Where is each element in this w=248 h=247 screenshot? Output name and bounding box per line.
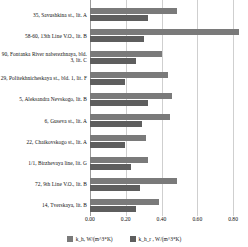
bar-series-2: [90, 100, 148, 106]
category-row: 1/1, Birzhevaya line, lit. G: [0, 152, 248, 173]
bar-series-2: [90, 36, 144, 42]
plot-area: 35, Savushkina st., lit. A58-60, 13th Li…: [0, 0, 248, 220]
bar-group: [90, 68, 248, 89]
bar-series-1: [90, 157, 148, 163]
x-tick-label: 0.60: [192, 216, 202, 222]
bar-group: [90, 4, 248, 25]
chart-legend: k_h, W/(m^3*K)k_h_r , W/(m^3*K): [0, 232, 248, 245]
bar-group: [90, 195, 248, 216]
x-tick-label: 0.40: [157, 216, 167, 222]
bar-series-2: [90, 185, 140, 191]
bar-series-2: [90, 142, 125, 148]
category-label: 5, Aleksandra Nevskogo, lit. B: [0, 96, 90, 102]
bar-group: [90, 25, 248, 46]
x-tick-label: 0.80: [228, 216, 238, 222]
category-label: 6, Guseva st., lit. A: [0, 118, 90, 124]
bar-series-2: [90, 164, 131, 170]
bar-chart: 35, Savushkina st., lit. A58-60, 13th Li…: [0, 0, 248, 247]
bar-group: [90, 131, 248, 152]
category-row: 14, Tverskaya, lit. B: [0, 195, 248, 216]
bar-series-1: [90, 8, 177, 14]
bar-series-1: [90, 178, 177, 184]
bar-series-2: [90, 15, 148, 21]
x-axis: 0.000.200.400.600.80: [90, 216, 242, 228]
category-row: 72, 9th Line V.O., lit. B: [0, 174, 248, 195]
category-label: 90, Fontanka River naberezhnaya, bld. 3,…: [0, 51, 90, 63]
x-tick-label: 0.00: [85, 216, 95, 222]
legend-label: k_h, W/(m^3*K): [76, 236, 113, 242]
category-row: 29, Politekhnicheskaya st., bld. 1, lit.…: [0, 68, 248, 89]
category-label: 1/1, Birzhevaya line, lit. G: [0, 160, 90, 166]
category-label: 29, Politekhnicheskaya st., bld. 1, lit.…: [0, 75, 90, 81]
category-row: 22, Chaikovskogo st., lit. A: [0, 131, 248, 152]
bar-group: [90, 152, 248, 173]
bar-series-1: [90, 72, 168, 78]
category-label: 58-60, 13th Line V.O., lit. B: [0, 33, 90, 39]
legend-item[interactable]: k_h_r , W/(m^3*K): [130, 236, 182, 242]
bar-series-1: [90, 114, 170, 120]
category-row: 5, Aleksandra Nevskogo, lit. B: [0, 89, 248, 110]
bar-group: [90, 89, 248, 110]
category-label: 72, 9th Line V.O., lit. B: [0, 181, 90, 187]
bar-series-1: [90, 93, 172, 99]
bar-series-2: [90, 206, 136, 212]
bar-series-2: [90, 79, 125, 85]
x-tick-label: 0.20: [121, 216, 131, 222]
bar-group: [90, 110, 248, 131]
legend-label: k_h_r , W/(m^3*K): [139, 236, 182, 242]
category-row: 35, Savushkina st., lit. A: [0, 4, 248, 25]
category-row: 58-60, 13th Line V.O., lit. B: [0, 25, 248, 46]
category-row: 90, Fontanka River naberezhnaya, bld. 3,…: [0, 46, 248, 67]
legend-swatch-icon: [67, 236, 73, 242]
category-row: 6, Guseva st., lit. A: [0, 110, 248, 131]
bar-series-1: [90, 199, 159, 205]
category-label: 22, Chaikovskogo st., lit. A: [0, 139, 90, 145]
bar-series-1: [90, 29, 239, 35]
legend-swatch-icon: [130, 236, 136, 242]
category-label: 14, Tverskaya, lit. B: [0, 202, 90, 208]
bar-series-2: [90, 121, 142, 127]
bar-series-1: [90, 135, 146, 141]
bar-series-1: [90, 51, 162, 57]
category-label: 35, Savushkina st., lit. A: [0, 12, 90, 18]
bar-group: [90, 46, 248, 67]
category-rows: 35, Savushkina st., lit. A58-60, 13th Li…: [0, 4, 248, 216]
bar-series-2: [90, 58, 136, 64]
legend-item[interactable]: k_h, W/(m^3*K): [67, 236, 113, 242]
bar-group: [90, 174, 248, 195]
